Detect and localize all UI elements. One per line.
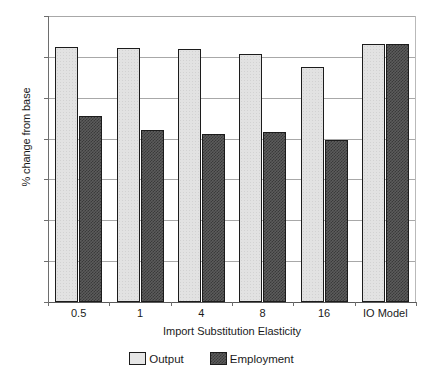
bar-chart: % change from base 00.10.20.30.40.50.60.…	[0, 0, 423, 382]
x-tick-mark	[48, 302, 49, 306]
bar-employment-4	[202, 134, 225, 302]
bar-employment-0.5	[79, 116, 102, 302]
bar-output-io-model	[362, 44, 385, 302]
legend-label: Output	[149, 353, 184, 365]
bar-employment-16	[325, 140, 348, 302]
chart-legend: OutputEmployment	[0, 352, 423, 365]
x-tick-mark	[416, 302, 417, 306]
x-tick-label: IO Model	[345, 307, 423, 319]
bar-employment-1	[141, 130, 164, 302]
x-tick-mark	[293, 302, 294, 306]
bar-output-8	[239, 54, 262, 302]
bar-output-0.5	[55, 47, 78, 302]
y-axis-title: % change from base	[20, 57, 32, 217]
legend-label: Employment	[230, 353, 294, 365]
legend-entry-output: Output	[129, 352, 184, 365]
legend-swatch-employment	[210, 352, 227, 365]
legend-swatch-output	[129, 352, 146, 365]
legend-entry-employment: Employment	[210, 352, 294, 365]
x-tick-mark	[232, 302, 233, 306]
x-axis-title: Import Substitution Elasticity	[48, 325, 416, 337]
x-tick-mark	[171, 302, 172, 306]
bars-layer	[48, 16, 416, 302]
x-tick-mark	[355, 302, 356, 306]
x-tick-mark	[109, 302, 110, 306]
bar-output-16	[301, 67, 324, 302]
bar-employment-8	[263, 132, 286, 302]
bar-output-1	[117, 48, 140, 302]
bar-output-4	[178, 49, 201, 302]
bar-employment-io-model	[386, 44, 409, 302]
